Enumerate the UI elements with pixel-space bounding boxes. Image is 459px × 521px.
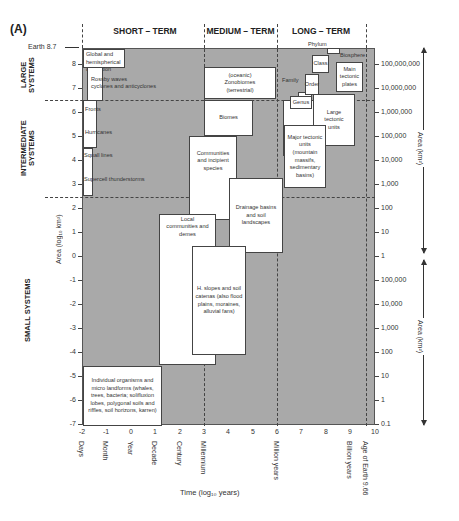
x-tick: 5 xyxy=(245,428,261,435)
y-tick: -7 xyxy=(56,420,76,427)
box-drainage-basins: Drainage basins and soil landscapes xyxy=(229,178,283,253)
short-term-heading: SHORT – TERM xyxy=(86,26,204,36)
box-class: Class xyxy=(312,55,329,73)
y-tick: 6 xyxy=(56,108,76,115)
y-tick: 1 xyxy=(56,228,76,235)
y-tick: -3 xyxy=(56,324,76,331)
cyclones-label: cyclones and anticyclones xyxy=(91,83,156,90)
panel-label: (A) xyxy=(10,22,27,36)
x-tick: 0 xyxy=(123,428,139,435)
x-name-age-of-earth: Age of Earth 9.66 xyxy=(362,441,369,495)
intermediate-systems-label: INTERMEDIATESYSTEMS xyxy=(20,100,37,196)
plot-area: Global and hemispherical circulation Ros… xyxy=(82,48,375,425)
box-phylum xyxy=(327,48,340,54)
x-name-million-years: Million years xyxy=(273,441,280,480)
hurricanes-label: Hurricanes xyxy=(85,129,112,136)
y-tick: 3 xyxy=(56,180,76,187)
box-zonobiomes: (oceanic) Zonobiomes (terrestrial) xyxy=(204,67,276,99)
box-main-tectonic-plates: Main tectonic plates xyxy=(336,62,363,92)
x-tick: -2 xyxy=(74,428,90,435)
supercell-label: Supercell thunderstorms xyxy=(84,176,145,183)
box-hillslopes: H. slopes and soil catenas (also flood p… xyxy=(192,246,246,355)
right-tick: 100,000 xyxy=(381,276,406,283)
upper-area-label: Area (km²) xyxy=(417,130,424,167)
right-tick: 10,000 xyxy=(381,156,402,163)
right-tick: 0.1 xyxy=(381,420,391,427)
right-tick: 100,000 xyxy=(381,132,406,139)
x-name-days: Days xyxy=(78,441,85,457)
box-individual-organisms: Individual organisms and micro landforms… xyxy=(83,366,162,426)
y-tick: -5 xyxy=(56,372,76,379)
right-tick: 10 xyxy=(381,372,389,379)
box-biomes: Biomes xyxy=(204,100,253,136)
y-tick: -6 xyxy=(56,396,76,403)
right-tick: 10 xyxy=(381,228,389,235)
box-major-tectonic-units: Major tectonic units (mountain massifs, … xyxy=(284,125,326,188)
small-systems-label: SMALL SYSTEMS xyxy=(24,265,32,355)
x-name-month: Month xyxy=(102,441,109,460)
right-tick: 100,000,000 xyxy=(381,60,420,67)
squall-lines-label: Squall lines xyxy=(84,152,113,159)
phylum-label: Phylum xyxy=(308,41,327,48)
right-tick: 100 xyxy=(381,204,393,211)
y-tick: 0 xyxy=(56,252,76,259)
x-tick: -1 xyxy=(98,428,114,435)
right-tick: 10,000,000 xyxy=(381,84,416,91)
right-tick: 1 xyxy=(381,396,385,403)
y-tick: 7 xyxy=(56,84,76,91)
large-systems-label: LARGESYSTEMS xyxy=(20,52,37,98)
right-tick: 1,000 xyxy=(381,180,399,187)
lower-area-label: Area (km²) xyxy=(417,318,424,355)
y-tick: -2 xyxy=(56,300,76,307)
divider-line xyxy=(204,24,205,48)
x-name-year: Year xyxy=(127,441,134,455)
y-tick: 2 xyxy=(56,204,76,211)
box-order: Order xyxy=(305,74,319,95)
x-name-millennium: Millennium xyxy=(200,441,207,474)
y-tick: -4 xyxy=(56,348,76,355)
right-tick: 100 xyxy=(381,348,393,355)
divider-line xyxy=(82,24,83,48)
y-tick: -1 xyxy=(56,276,76,283)
age-earth-line xyxy=(366,49,367,426)
y-tick: 5 xyxy=(56,132,76,139)
x-tick: 8 xyxy=(318,428,334,435)
rossby-label: Rossby waves xyxy=(91,76,127,83)
x-axis-title: Time (log₁₀ years) xyxy=(180,488,240,497)
y-tick: 8 xyxy=(56,60,76,67)
x-name-century: Century xyxy=(176,441,183,466)
x-tick: 9 xyxy=(342,428,358,435)
right-tick: 10,000 xyxy=(381,300,402,307)
family-label: Family xyxy=(282,77,298,84)
x-name-billion-years: Billion years xyxy=(346,441,353,479)
long-term-heading: LONG – TERM xyxy=(277,26,365,36)
fronts-label: Fronts xyxy=(85,106,101,113)
earth-label: Earth 8.7 xyxy=(28,43,56,50)
x-tick: 2 xyxy=(172,428,188,435)
box-genus: Genus xyxy=(290,96,312,109)
x-tick: 1 xyxy=(147,428,163,435)
y-tick: 4 xyxy=(56,156,76,163)
earth-arrow xyxy=(65,47,79,48)
x-tick: 7 xyxy=(293,428,309,435)
medium-term-heading: MEDIUM – TERM xyxy=(204,26,277,36)
divider-line xyxy=(277,24,278,48)
right-tick: 1,000 xyxy=(381,324,399,331)
x-tick: 4 xyxy=(220,428,236,435)
x-name-decade: Decade xyxy=(151,441,158,465)
biosphere-label: Biosphere xyxy=(340,52,365,59)
right-tick: 1,000,000 xyxy=(381,108,412,115)
x-tick: 10 xyxy=(367,428,383,435)
x-tick: 6 xyxy=(269,428,285,435)
divider-line xyxy=(366,24,367,48)
right-tick: 1 xyxy=(381,252,385,259)
x-tick: 3 xyxy=(196,428,212,435)
box-global-circulation: Global and hemispherical circulation xyxy=(83,49,125,68)
